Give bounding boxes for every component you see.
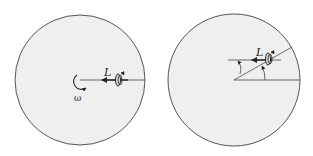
left-panel: L ω: [15, 15, 145, 145]
right-panel: L: [168, 14, 300, 146]
omega-label: ω: [74, 93, 81, 103]
left-L-label: L: [103, 66, 111, 79]
diagram-canvas: L ω L: [0, 0, 313, 156]
right-L-label: L: [255, 46, 263, 59]
